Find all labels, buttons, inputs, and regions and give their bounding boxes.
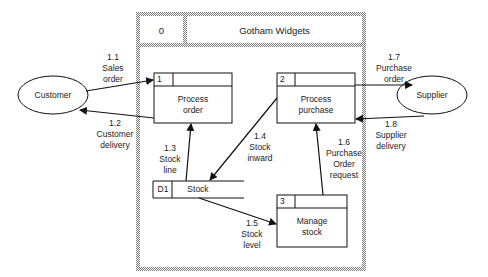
process-3-name: Manage stock: [277, 216, 347, 238]
flow-1-1-label: 1.1 Sales order: [93, 52, 133, 85]
data-flow-diagram: 0 Gotham Widgets Customer Supplier 1 2 3…: [0, 0, 488, 277]
flow-1-5-label: 1.5 Stock level: [235, 218, 269, 251]
system-title: Gotham Widgets: [187, 25, 362, 36]
flow-1-2-label: 1.2 Customer delivery: [90, 118, 140, 151]
data-store-name: Stock: [176, 184, 220, 195]
process-1-id: 1: [154, 74, 173, 85]
process-1-name: Process order: [154, 94, 232, 116]
flow-1-2-arrow: [80, 110, 154, 118]
flow-1-8-label: 1.8 Supplier delivery: [367, 119, 415, 152]
process-2-id: 2: [277, 74, 296, 85]
process-2-name: Process purchase: [277, 94, 355, 116]
entity-supplier: Supplier: [397, 90, 467, 101]
data-store-id: D1: [154, 184, 172, 195]
process-3-id: 3: [277, 196, 296, 207]
entity-customer: Customer: [18, 90, 88, 101]
flow-1-7-label: 1.7 Purchase order: [369, 52, 419, 85]
flow-1-6-label: 1.6 Purchase Order request: [321, 137, 367, 181]
flow-1-3-label: 1.3 Stock line: [152, 143, 188, 176]
flow-1-4-label: 1.4 Stock inward: [243, 131, 277, 164]
system-id: 0: [140, 25, 183, 36]
